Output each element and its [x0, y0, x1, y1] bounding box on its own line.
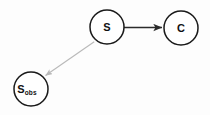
- edge-s-to-s-obs: [46, 42, 95, 76]
- node-c[interactable]: C: [164, 11, 198, 45]
- causal-graph-diagram: S C Sobs: [0, 0, 210, 115]
- node-s-label: S: [103, 21, 111, 33]
- nodes-group: S C Sobs: [14, 10, 198, 106]
- node-s[interactable]: S: [90, 10, 124, 44]
- node-s-obs[interactable]: Sobs: [14, 72, 48, 106]
- diagram-canvas: S C Sobs: [0, 0, 210, 115]
- node-c-label: C: [177, 22, 185, 34]
